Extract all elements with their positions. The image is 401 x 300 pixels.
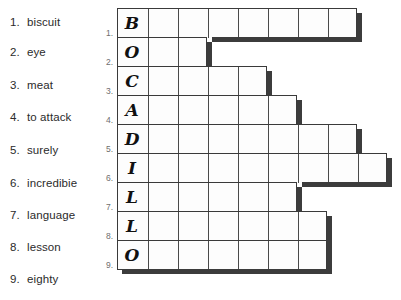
grid-row-number: 5. (100, 144, 113, 154)
cell-divider (178, 9, 179, 38)
cell-divider (148, 67, 149, 96)
row-shadow-bottom (302, 182, 392, 187)
cell-divider (238, 154, 239, 183)
grid-row-number: 7. (100, 202, 113, 212)
cell-divider (178, 38, 179, 67)
row-shadow-bottom (212, 37, 362, 42)
cell-divider (298, 212, 299, 241)
cell-divider (208, 212, 209, 241)
grid-letter: A (117, 96, 147, 124)
cell-divider (298, 154, 299, 183)
cell-divider (328, 154, 329, 183)
cell-divider (238, 183, 239, 212)
grid-row-number: 2. (100, 57, 113, 67)
cell-divider (178, 212, 179, 241)
cell-divider (328, 125, 329, 154)
grid-letter: D (117, 125, 147, 153)
grid-letter: L (117, 183, 147, 211)
cell-divider (148, 212, 149, 241)
cell-divider (148, 125, 149, 154)
grid-row (117, 211, 327, 241)
cell-divider (268, 241, 269, 269)
cell-divider (208, 67, 209, 96)
cell-divider (148, 154, 149, 183)
cell-divider (238, 212, 239, 241)
grid-row-number: 6. (100, 173, 113, 183)
cell-divider (238, 9, 239, 38)
cell-divider (148, 38, 149, 67)
grid-row-number: 9. (100, 260, 113, 270)
cell-divider (208, 241, 209, 269)
cell-divider (208, 9, 209, 38)
cell-divider (148, 96, 149, 125)
cell-divider (148, 9, 149, 38)
cell-divider (238, 67, 239, 96)
cell-divider (238, 241, 239, 269)
cell-divider (178, 241, 179, 269)
cell-divider (178, 96, 179, 125)
puzzle-grid: B1.O2.C3.A4.D5.I6.L7.L8.O9. (0, 0, 401, 300)
grid-row-number: 4. (100, 115, 113, 125)
grid-letter: L (117, 212, 147, 240)
cell-divider (178, 154, 179, 183)
cell-divider (358, 154, 359, 183)
cell-divider (268, 154, 269, 183)
cell-divider (268, 183, 269, 212)
cell-divider (268, 125, 269, 154)
cell-divider (208, 154, 209, 183)
cell-divider (298, 125, 299, 154)
cell-divider (328, 9, 329, 38)
crossword-worksheet: 1.biscuit2.eye3.meat4.to attack5.surely6… (0, 0, 401, 300)
cell-divider (148, 241, 149, 269)
cell-divider (178, 125, 179, 154)
grid-letter: I (117, 154, 147, 182)
cell-divider (268, 9, 269, 38)
grid-letter: O (117, 241, 147, 269)
cell-divider (208, 183, 209, 212)
grid-row-number: 1. (100, 28, 113, 38)
cell-divider (298, 9, 299, 38)
row-shadow-right (327, 216, 332, 245)
cell-divider (298, 241, 299, 269)
cell-divider (148, 183, 149, 212)
grid-letter: O (117, 38, 147, 66)
grid-letter: B (117, 9, 147, 37)
cell-divider (268, 96, 269, 125)
grid-row (117, 124, 357, 154)
grid-row-number: 3. (100, 86, 113, 96)
cell-divider (238, 96, 239, 125)
cell-divider (178, 183, 179, 212)
cell-divider (238, 125, 239, 154)
cell-divider (268, 212, 269, 241)
cell-divider (208, 125, 209, 154)
row-shadow-bottom (122, 269, 332, 274)
grid-row-number: 8. (100, 231, 113, 241)
cell-divider (208, 96, 209, 125)
grid-letter: C (117, 67, 147, 95)
grid-row (117, 240, 327, 270)
cell-divider (178, 67, 179, 96)
grid-row (117, 8, 357, 38)
grid-row (117, 153, 387, 183)
